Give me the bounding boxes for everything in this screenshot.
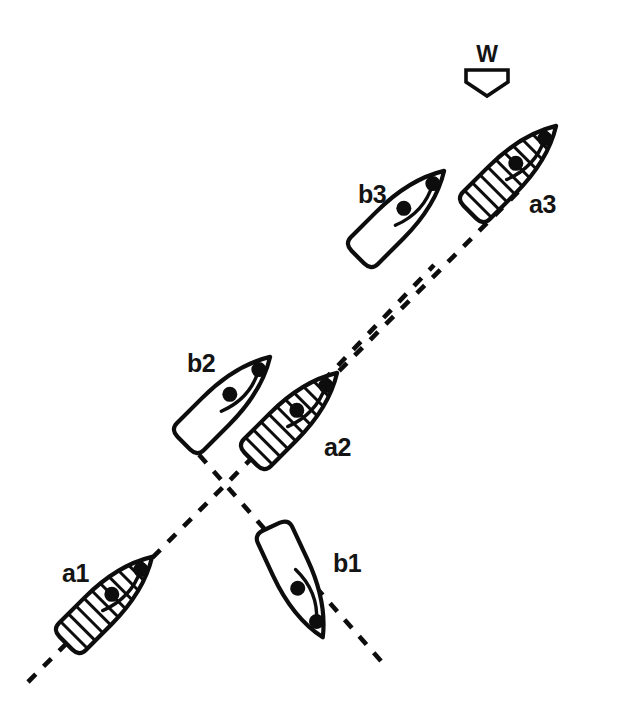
boat-label-b2: b2: [187, 349, 215, 377]
boat-label-a3: a3: [529, 190, 556, 218]
wind-label: W: [476, 41, 498, 67]
boat-b3: [344, 157, 457, 270]
boat-label-a1: a1: [62, 559, 89, 587]
diagram-canvas: a1 b1 a2 b2 b3 a3 W: [0, 0, 618, 724]
boat-label-a2: a2: [324, 433, 351, 461]
boat-label-b1: b1: [333, 549, 362, 577]
boat-label-b3: b3: [358, 180, 386, 208]
wind-indicator: W: [466, 41, 508, 96]
boat-b1: [254, 519, 340, 646]
sailing-diagram: a1 b1 a2 b2 b3 a3 W: [0, 0, 618, 724]
wind-arrow-icon: [466, 70, 508, 96]
